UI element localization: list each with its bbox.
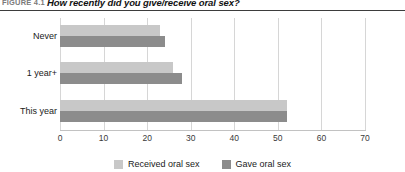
legend-swatch-icon — [222, 160, 231, 169]
legend-label: Gave oral sex — [236, 159, 292, 169]
x-tick-label: 50 — [273, 133, 282, 143]
x-tick-label: 30 — [186, 133, 195, 143]
legend-swatch-icon — [114, 160, 123, 169]
category-label: 1 year+ — [0, 68, 57, 78]
x-tick-label: 10 — [99, 133, 108, 143]
chart-legend: Received oral sexGave oral sex — [0, 159, 405, 169]
x-tick-label: 40 — [230, 133, 239, 143]
bar — [60, 62, 173, 73]
x-tick-label: 20 — [142, 133, 151, 143]
bar-group: 1 year+ — [60, 55, 365, 92]
bar — [60, 36, 165, 47]
chart-container: Never1 year+This year 010203040506070 Re… — [0, 12, 405, 172]
legend-label: Received oral sex — [128, 159, 200, 169]
figure-title-bar: FIGURE 4.1 How recently did you give/rec… — [0, 0, 405, 10]
bar-group: Never — [60, 18, 365, 55]
gridline-70 — [365, 18, 366, 130]
bar — [60, 111, 287, 122]
category-label: Never — [0, 31, 57, 41]
bar — [60, 73, 182, 84]
x-tick-label: 0 — [58, 133, 63, 143]
figure-number: FIGURE 4.1 — [2, 0, 45, 7]
bar-group: This year — [60, 93, 365, 130]
legend-item: Received oral sex — [114, 159, 200, 169]
category-label: This year — [0, 106, 57, 116]
plot-area: Never1 year+This year — [60, 18, 365, 130]
bar — [60, 100, 287, 111]
legend-item: Gave oral sex — [222, 159, 292, 169]
title-divider — [0, 10, 405, 11]
page-title: How recently did you give/receive oral s… — [47, 0, 240, 8]
x-tick-label: 60 — [317, 133, 326, 143]
x-tick-label: 70 — [360, 133, 369, 143]
x-axis-line — [60, 130, 366, 131]
bar — [60, 25, 160, 36]
x-axis-tick-labels: 010203040506070 — [60, 133, 365, 147]
